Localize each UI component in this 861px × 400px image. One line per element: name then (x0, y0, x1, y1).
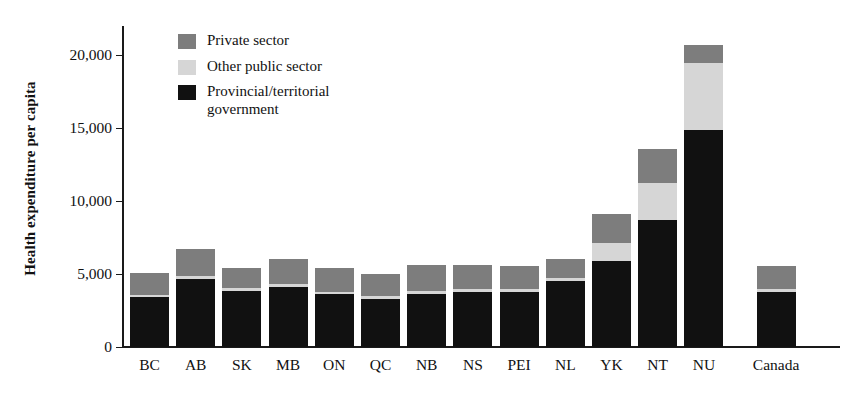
bar-segment (269, 287, 308, 347)
bar-segment (130, 295, 169, 298)
bar-segment (684, 45, 723, 63)
bar-segment (269, 259, 308, 284)
bar-segment (222, 268, 261, 288)
bar-segment (500, 289, 539, 292)
legend-swatch-icon (178, 60, 196, 75)
bar-segment (684, 63, 723, 129)
x-axis-label-canada: Canada (743, 356, 810, 374)
bar-segment (592, 243, 631, 261)
legend-item: Provincial/territorial government (178, 83, 357, 118)
legend-item: Other public sector (178, 58, 357, 76)
legend-item: Private sector (178, 32, 357, 50)
bar-segment (361, 274, 400, 296)
y-axis-tick-label: 5,000 (0, 266, 112, 282)
bar-segment (757, 289, 796, 292)
bar-segment (638, 220, 677, 347)
health-expenditure-stacked-bar-chart: Health expenditure per capita 05,00010,0… (0, 0, 861, 400)
bar-nt (638, 26, 677, 347)
bar-segment (500, 266, 539, 289)
bar-segment (407, 294, 446, 347)
bar-segment (315, 292, 354, 295)
bar-segment (130, 297, 169, 347)
bar-segment (176, 279, 215, 347)
bar-segment (269, 284, 308, 287)
legend-swatch-icon (178, 34, 196, 49)
x-axis-label-nu: NU (670, 356, 737, 374)
bar-pei (500, 26, 539, 347)
y-axis-tick-label: 10,000 (0, 193, 112, 209)
bar-nl (546, 26, 585, 347)
bar-nu (684, 26, 723, 347)
bar-segment (546, 259, 585, 278)
bar-segment (453, 292, 492, 347)
bar-segment (315, 294, 354, 347)
bar-canada (757, 26, 796, 347)
y-axis-title: Health expenditure per capita (22, 29, 39, 329)
bar-segment (638, 149, 677, 183)
legend-swatch-icon (178, 85, 196, 100)
bar-segment (638, 183, 677, 220)
bar-segment (315, 268, 354, 292)
bar-segment (361, 296, 400, 299)
bar-segment (453, 289, 492, 292)
y-axis-tick-label: 0 (0, 339, 112, 355)
bar-segment (176, 276, 215, 279)
bar-ns (453, 26, 492, 347)
bar-segment (176, 249, 215, 276)
bar-qc (361, 26, 400, 347)
bar-segment (453, 265, 492, 290)
bar-segment (407, 265, 446, 291)
bar-bc (130, 26, 169, 347)
bar-segment (222, 288, 261, 291)
bar-segment (546, 281, 585, 347)
y-axis-tick-label: 15,000 (0, 120, 112, 136)
bar-segment (222, 291, 261, 347)
bar-segment (684, 130, 723, 347)
legend-label: Other public sector (207, 58, 322, 76)
chart-legend: Private sectorOther public sectorProvinc… (178, 32, 357, 127)
bar-segment (546, 278, 585, 281)
bar-segment (361, 299, 400, 347)
bar-nb (407, 26, 446, 347)
bar-yk (592, 26, 631, 347)
bar-segment (407, 291, 446, 294)
bar-segment (500, 292, 539, 347)
bar-segment (592, 261, 631, 347)
y-axis-tick-label: 20,000 (0, 47, 112, 63)
bar-segment (757, 266, 796, 289)
legend-label: Provincial/territorial government (207, 83, 357, 118)
bar-segment (757, 292, 796, 347)
bar-segment (130, 273, 169, 295)
bar-segment (592, 214, 631, 243)
legend-label: Private sector (207, 32, 289, 50)
